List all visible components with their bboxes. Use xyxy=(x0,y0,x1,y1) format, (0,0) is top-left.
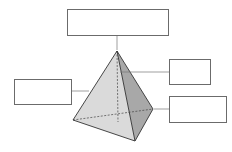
label-box-right-lower xyxy=(169,96,227,123)
label-box-left xyxy=(14,79,72,105)
label-box-top xyxy=(67,9,169,36)
label-box-right-upper xyxy=(169,59,211,85)
